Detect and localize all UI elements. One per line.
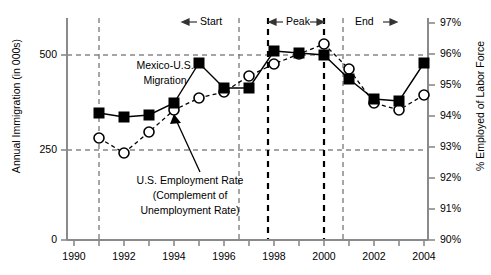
data-point-square [144,110,155,121]
chart-figure: Annual Immigration (in 000s) % Employed … [0,0,491,275]
x-tick-label-1998: 1998 [252,250,296,262]
data-point-circle [419,90,429,100]
right-tick-label-94: 94% [440,109,461,121]
end-arrow-head-right [390,19,397,25]
data-point-circle [269,59,279,69]
x-tick-label-1994: 1994 [152,250,196,262]
data-point-circle [344,64,354,74]
right-tick-label-95: 95% [440,78,461,90]
series-label-migration-line2: Migration [110,74,220,86]
data-point-circle [244,71,254,81]
right-tick-label-93: 93% [440,140,461,152]
data-point-square [244,83,255,94]
data-point-circle [94,133,104,143]
data-point-square [94,108,105,119]
data-point-circle [119,148,129,158]
series-label-employment-line2: (Complement of [100,189,280,201]
left-tick-label-500: 500 [27,48,57,60]
right-axis-ticks [428,23,435,240]
peak-arrow-head-left [269,19,276,25]
x-tick-label-2000: 2000 [302,250,346,262]
pointer-arrow-shaft [177,122,200,172]
band-label-peak: Peak [286,15,310,27]
right-tick-label-90: 90% [440,233,461,245]
data-point-square [119,112,130,123]
x-tick-label-2002: 2002 [352,250,396,262]
x-tick-label-2004: 2004 [402,250,446,262]
x-tick-label-1996: 1996 [202,250,246,262]
right-tick-label-92: 92% [440,171,461,183]
data-point-circle [144,127,154,137]
data-point-square [369,94,380,105]
chart-plot-area [0,0,491,275]
data-point-square [394,96,405,107]
data-point-square [294,48,305,59]
right-tick-label-96: 96% [440,47,461,59]
series-label-employment-line1: U.S. Employment Rate [100,174,280,186]
data-point-circle [319,39,329,49]
data-point-square [219,83,230,94]
right-tick-label-97: 97% [440,16,461,28]
x-tick-label-1992: 1992 [102,250,146,262]
data-point-square [169,98,180,109]
data-point-square [269,46,280,57]
employment-label-pointer-arrow [170,114,200,172]
x-tick-label-1990: 1990 [52,250,96,262]
right-axis-title: % Employed of Labor Force [474,6,486,206]
band-label-start: Start [200,15,222,27]
data-point-circle [194,93,204,103]
band-label-end: End [355,15,374,27]
left-axis-title: Annual Immigration (in 000s) [10,6,22,206]
left-tick-label-250: 250 [27,143,57,155]
right-tick-label-91: 91% [440,202,461,214]
series-label-employment-line3: Unemployment Rate) [100,204,280,216]
series-label-migration-line1: Mexico-U.S. [110,59,220,71]
start-arrow-head-left [182,19,189,25]
data-point-square [344,74,355,85]
data-point-square [319,50,330,61]
data-point-square [419,58,430,69]
left-tick-label-0: 0 [27,233,57,245]
